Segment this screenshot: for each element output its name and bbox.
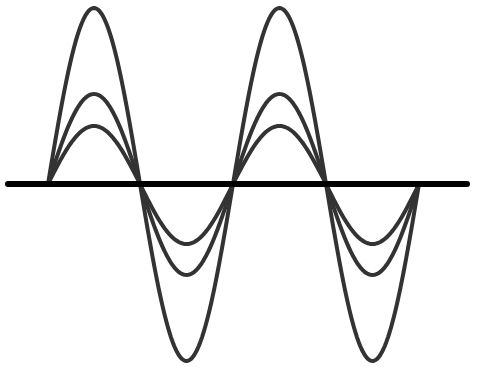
waveform-diagram <box>0 0 477 370</box>
